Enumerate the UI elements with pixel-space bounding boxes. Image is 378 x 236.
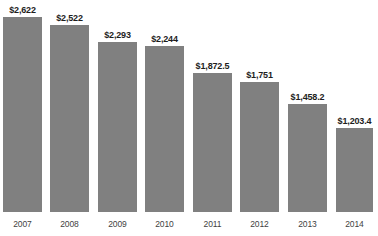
bar-value-label: $2,293 <box>104 30 131 41</box>
bar-value-label: $1,203.4 <box>338 116 372 127</box>
x-axis-tick-label: 2011 <box>193 219 232 229</box>
bar-value-label: $2,522 <box>56 13 83 24</box>
bar-group: $1,458.2 <box>288 92 327 212</box>
x-axis-tick-labels: 20072008200920102011201220132014 <box>0 212 378 236</box>
bar-group: $1,751 <box>240 70 279 212</box>
bar-group: $2,244 <box>145 34 184 212</box>
bar-group: $2,293 <box>98 30 137 212</box>
bar-rect <box>288 104 327 212</box>
x-axis-tick-label: 2009 <box>98 219 137 229</box>
bar-value-label: $2,622 <box>9 5 36 16</box>
x-axis-tick-label: 2012 <box>240 219 279 229</box>
x-axis-tick-label: 2007 <box>3 219 42 229</box>
bar-value-label: $1,872.5 <box>196 61 230 72</box>
bar-value-label: $1,458.2 <box>291 92 325 103</box>
bar-value-label: $1,751 <box>246 70 273 81</box>
bar-rect <box>193 73 232 212</box>
bar-rect <box>98 42 137 212</box>
x-axis-tick-label: 2014 <box>336 219 373 229</box>
plot-area: $2,622$2,522$2,293$2,244$1,872.5$1,751$1… <box>0 0 378 212</box>
bar-rect <box>145 46 184 212</box>
x-axis-tick-label: 2010 <box>145 219 184 229</box>
bar-rect <box>50 25 89 212</box>
bar-group: $1,872.5 <box>193 61 232 212</box>
bar-value-label: $2,244 <box>151 34 178 45</box>
bar-rect <box>240 82 279 212</box>
bar-rect <box>336 128 373 212</box>
bar-group: $2,622 <box>3 5 42 212</box>
bar-group: $2,522 <box>50 13 89 212</box>
x-axis-tick-label: 2008 <box>50 219 89 229</box>
bar-rect <box>3 17 42 212</box>
bar-chart: $2,622$2,522$2,293$2,244$1,872.5$1,751$1… <box>0 0 378 236</box>
x-axis-tick-label: 2013 <box>288 219 327 229</box>
bar-group: $1,203.4 <box>336 116 373 212</box>
